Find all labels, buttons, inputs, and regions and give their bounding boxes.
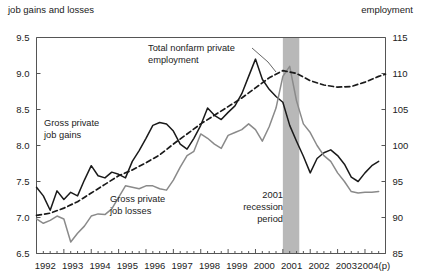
right-tick-label: 100 <box>393 140 409 151</box>
x-tick-label: 1999 <box>226 260 247 271</box>
x-tick-label: 2003 <box>336 260 357 271</box>
series-total-nonfarm-private-employment <box>37 71 386 216</box>
data-series <box>37 59 386 242</box>
right-tick-label: 110 <box>393 68 408 79</box>
series-gross-private-job-losses <box>37 66 379 242</box>
annotation-job-losses-line2: job losses <box>109 206 152 216</box>
left-tick-label: 7.5 <box>16 176 29 187</box>
x-tick-label: 1994 <box>89 260 110 271</box>
x-tick-label: 1993 <box>62 260 83 271</box>
left-tick-label: 8.0 <box>16 140 29 151</box>
x-tick-label: 1996 <box>144 260 165 271</box>
x-tick-label: 2004(p) <box>357 260 390 271</box>
x-tick-label: 2000 <box>254 260 275 271</box>
chart-container: job gains and losses employment 9.59.08.… <box>0 0 421 280</box>
left-tick-label: 6.5 <box>16 248 29 259</box>
annotation-recession-line2: recession <box>243 202 283 212</box>
left-tick-label: 8.5 <box>16 104 29 115</box>
right-tick-label: 90 <box>393 212 404 223</box>
annotation-job-gains-line2: job gains <box>43 130 82 140</box>
right-axis-tick-labels: 115110105100959085 <box>393 32 409 259</box>
right-tick-label: 85 <box>393 248 404 259</box>
left-tick-label: 9.0 <box>16 68 29 79</box>
left-tick-label: 7.0 <box>16 212 29 223</box>
x-tick-label: 1992 <box>35 260 56 271</box>
axes <box>37 38 386 254</box>
left-axis-tick-labels: 9.59.08.58.07.57.06.5 <box>16 32 29 259</box>
chart-plot: 9.59.08.58.07.57.06.5 115110105100959085… <box>0 0 421 280</box>
x-tick-label: 1998 <box>199 260 220 271</box>
x-tick-label: 2002 <box>308 260 329 271</box>
x-tick-label: 2001 <box>281 260 302 271</box>
left-tick-label: 9.5 <box>16 32 29 43</box>
x-axis-tick-labels: 1992199319941995199619971998199920002001… <box>35 260 390 271</box>
series-gross-private-job-gains <box>37 59 379 210</box>
right-tick-label: 105 <box>393 104 409 115</box>
right-tick-label: 115 <box>393 32 408 43</box>
annotation-recession-line1: 2001 <box>262 190 283 200</box>
annotation-nonfarm-employment-line1: Total nonfarm private <box>148 43 235 53</box>
right-tick-label: 95 <box>393 176 404 187</box>
tick-marks <box>37 38 386 254</box>
x-tick-label: 1997 <box>172 260 193 271</box>
annotation-job-losses-line1: Gross private <box>110 194 165 204</box>
annotation-recession-line3: period <box>257 214 283 224</box>
x-tick-label: 1995 <box>117 260 138 271</box>
annotation-nonfarm-employment-line2: employment <box>148 55 199 65</box>
annotation-job-gains-line1: Gross private <box>44 118 99 128</box>
